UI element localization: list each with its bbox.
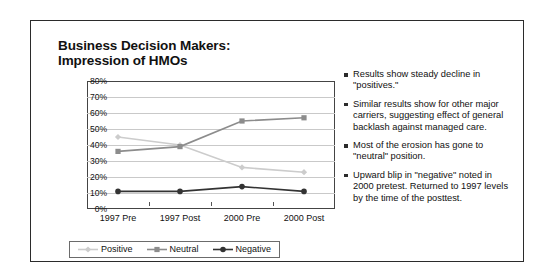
series-line-neutral (118, 118, 304, 152)
bullet-square-icon (344, 73, 348, 77)
x-axis-tick-label: 1997 Post (160, 213, 201, 223)
series-line-negative (118, 187, 304, 192)
title-line-1: Business Decision Makers: (58, 38, 230, 53)
legend-label: Neutral (170, 244, 199, 254)
chart-series-layer (87, 81, 335, 209)
legend-swatch-square-icon (147, 245, 167, 254)
legend-item-neutral[interactable]: Neutral (147, 244, 199, 254)
data-point-positive (301, 169, 307, 175)
data-point-neutral (177, 144, 182, 149)
bullet-square-icon (344, 103, 348, 107)
data-point-neutral (301, 115, 306, 120)
data-point-negative (177, 189, 183, 195)
data-point-negative (301, 189, 307, 195)
bullet-square-icon (344, 144, 348, 148)
bullet-item: Upward blip in "negative" noted in 2000 … (344, 170, 512, 204)
legend-item-negative[interactable]: Negative (213, 244, 272, 254)
bullet-text: Results show steady decline in "positive… (353, 69, 480, 90)
data-point-negative (239, 184, 245, 190)
bullet-text: Similar results show for other major car… (353, 99, 503, 132)
bullet-item: Similar results show for other major car… (344, 99, 512, 133)
x-axis-tick-label: 2000 Pre (224, 213, 261, 223)
legend-item-positive[interactable]: Positive (78, 244, 133, 254)
page-title: Business Decision Makers: Impression of … (58, 38, 230, 68)
x-axis-tick-label: 2000 Post (284, 213, 325, 223)
data-point-positive (239, 164, 245, 170)
bullet-text: Upward blip in "negative" noted in 2000 … (353, 170, 508, 203)
legend-swatch-diamond-icon (78, 245, 98, 254)
bullet-item: Most of the erosion has gone to "neutral… (344, 140, 512, 163)
data-point-neutral (239, 118, 244, 123)
legend-label: Positive (101, 244, 133, 254)
data-point-neutral (115, 149, 120, 154)
data-point-positive (115, 134, 121, 140)
legend-label: Negative (236, 244, 272, 254)
legend-swatch-circle-icon (213, 245, 233, 254)
slide-frame: Business Decision Makers: Impression of … (30, 20, 524, 262)
data-point-negative (115, 189, 121, 195)
line-chart: 0%10%20%30%40%50%60%70%80% 1997 Pre1997 … (39, 73, 359, 255)
chart-legend: PositiveNeutralNegative (69, 241, 280, 258)
series-line-positive (118, 137, 304, 172)
bullet-item: Results show steady decline in "positive… (344, 69, 512, 92)
bullet-square-icon (344, 174, 348, 178)
title-line-2: Impression of HMOs (58, 53, 230, 68)
bullet-list: Results show steady decline in "positive… (344, 69, 512, 211)
x-axis-tick-label: 1997 Pre (100, 213, 137, 223)
bullet-text: Most of the erosion has gone to "neutral… (353, 140, 483, 161)
